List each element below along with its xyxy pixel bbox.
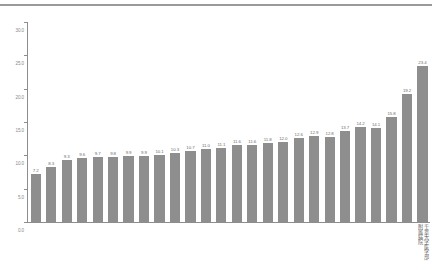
- x-axis-line: [27, 222, 430, 223]
- bar-value-label: 23.4: [418, 60, 426, 65]
- bar-slot: 7.2: [28, 22, 43, 222]
- y-axis-tick: 10.0: [0, 151, 28, 159]
- y-axis-tick-mark: [24, 55, 27, 56]
- x-axis-category-label: 千葉大学医学部附属病院: [417, 224, 428, 259]
- bar-slot: 11.1: [214, 22, 229, 222]
- bar-slot: 9.3: [59, 22, 74, 222]
- bar-value-label: 9.9: [141, 150, 147, 155]
- bar-slot: 9.9: [121, 22, 136, 222]
- y-axis-tick: 25.0: [0, 51, 28, 59]
- bar-value-label: 11.8: [264, 137, 272, 142]
- x-axis-label-slot: [322, 224, 337, 270]
- bar-slot: 12.8: [322, 22, 337, 222]
- x-axis-label-slot: [276, 224, 291, 270]
- bar-slot: 11.8: [260, 22, 275, 222]
- bar[interactable]: 9.3: [62, 160, 72, 222]
- top-divider-rule: [0, 4, 432, 6]
- x-axis-label-slot: [152, 224, 167, 270]
- x-axis-label-group: 千葉大学医学部附属病院: [28, 224, 430, 270]
- bar[interactable]: 19.2: [402, 94, 412, 222]
- bar-slot: 11.6: [229, 22, 244, 222]
- bar-value-label: 14.2: [356, 121, 364, 126]
- bar[interactable]: 12.6: [294, 138, 304, 222]
- y-axis-tick-mark: [24, 22, 27, 23]
- x-axis-label-slot: [368, 224, 383, 270]
- bar[interactable]: 10.7: [185, 151, 195, 222]
- bar-slot: 15.8: [384, 22, 399, 222]
- bar-slot: 13.7: [337, 22, 352, 222]
- bar-slot: 12.0: [276, 22, 291, 222]
- x-axis-label-slot: [229, 224, 244, 270]
- bar[interactable]: 15.8: [386, 117, 396, 222]
- bar-value-label: 15.8: [387, 111, 395, 116]
- bar-value-label: 9.6: [79, 152, 85, 157]
- y-axis-tick: 0.0: [0, 218, 28, 226]
- bar-slot: 8.3: [43, 22, 58, 222]
- bar-slot: 12.9: [306, 22, 321, 222]
- y-axis-tick-label: 30.0: [15, 28, 24, 33]
- y-axis-tick-label: 25.0: [15, 61, 24, 66]
- bar-slot: 10.7: [183, 22, 198, 222]
- y-axis-tick-label: 20.0: [15, 95, 24, 100]
- x-axis-label-slot: [260, 224, 275, 270]
- bar-slot: 9.8: [105, 22, 120, 222]
- x-axis-label-slot: [59, 224, 74, 270]
- bar[interactable]: 9.6: [77, 158, 87, 222]
- y-axis-tick-mark: [24, 155, 27, 156]
- bar-value-label: 9.7: [95, 151, 101, 156]
- bar[interactable]: 10.1: [154, 155, 164, 222]
- bar[interactable]: 11.6: [232, 145, 242, 222]
- x-axis-label-slot: [291, 224, 306, 270]
- bar[interactable]: 23.4: [417, 66, 427, 222]
- x-axis-label-slot: [105, 224, 120, 270]
- x-axis-label-slot: [214, 224, 229, 270]
- x-axis-label-slot: [121, 224, 136, 270]
- bar[interactable]: 11.8: [263, 143, 273, 222]
- bar[interactable]: 9.8: [108, 157, 118, 222]
- bar[interactable]: 9.9: [139, 156, 149, 222]
- bar[interactable]: 11.1: [216, 148, 226, 222]
- bar-value-label: 11.6: [233, 139, 241, 144]
- bar[interactable]: 13.7: [340, 131, 350, 222]
- x-axis-label-slot: [245, 224, 260, 270]
- y-axis-tick-mark: [24, 222, 27, 223]
- bar[interactable]: 9.9: [123, 156, 133, 222]
- bar[interactable]: 12.0: [278, 142, 288, 222]
- bar-slot: 14.1: [368, 22, 383, 222]
- x-axis-label-slot: [384, 224, 399, 270]
- bar-value-label: 12.6: [295, 132, 303, 137]
- bar-value-label: 7.2: [33, 168, 39, 173]
- bar[interactable]: 8.3: [46, 167, 56, 222]
- bar[interactable]: 9.7: [93, 157, 103, 222]
- bar-value-label: 14.1: [372, 122, 380, 127]
- bar[interactable]: 11.6: [247, 145, 257, 222]
- bar[interactable]: 14.2: [355, 127, 365, 222]
- x-axis-label-slot: [337, 224, 352, 270]
- bar-slot: 11.6: [245, 22, 260, 222]
- x-axis-label-slot: [353, 224, 368, 270]
- y-axis-tick: 15.0: [0, 118, 28, 126]
- x-axis-label-slot: [183, 224, 198, 270]
- bar[interactable]: 14.1: [371, 128, 381, 222]
- bar-value-label: 10.1: [155, 149, 163, 154]
- y-axis-tick-label: 15.0: [15, 128, 24, 133]
- bar[interactable]: 10.3: [170, 153, 180, 222]
- bar[interactable]: 7.2: [31, 174, 41, 222]
- bar-value-label: 11.0: [202, 143, 210, 148]
- bar[interactable]: 12.8: [325, 137, 335, 222]
- bar-slot: 9.6: [74, 22, 89, 222]
- bar[interactable]: 12.9: [309, 136, 319, 222]
- bar-chart: 0.05.010.015.020.025.030.0 7.28.39.39.69…: [0, 0, 432, 270]
- y-axis-tick-mark: [24, 89, 27, 90]
- bar-slot: 10.3: [167, 22, 182, 222]
- x-axis-category-label-line1: 千葉大学医学部: [422, 224, 428, 259]
- bar-value-label: 11.1: [217, 142, 225, 147]
- plot-area: 7.28.39.39.69.79.89.99.910.110.310.711.0…: [28, 22, 430, 222]
- bar-value-label: 12.0: [279, 136, 287, 141]
- bar-value-label: 12.9: [310, 130, 318, 135]
- bar-value-label: 13.7: [341, 125, 349, 130]
- bar-value-label: 12.8: [326, 131, 334, 136]
- bar[interactable]: 11.0: [201, 149, 211, 222]
- x-axis-label-slot: [28, 224, 43, 270]
- x-axis-label-slot: [399, 224, 414, 270]
